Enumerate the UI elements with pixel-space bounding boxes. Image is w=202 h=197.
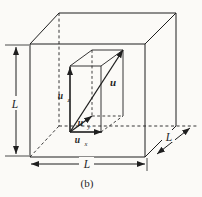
vector-u-label: u — [110, 76, 116, 88]
figure-cube-vector-diagram: L L L u u z u y u x (b) — [0, 0, 202, 197]
dim-depth-label: L — [165, 131, 172, 143]
dim-left-label: L — [11, 98, 18, 110]
diagram-canvas: L L L u u z u y u x (b) — [0, 0, 202, 197]
figure-caption: (b) — [81, 177, 94, 190]
dim-bottom-label: L — [83, 158, 90, 170]
